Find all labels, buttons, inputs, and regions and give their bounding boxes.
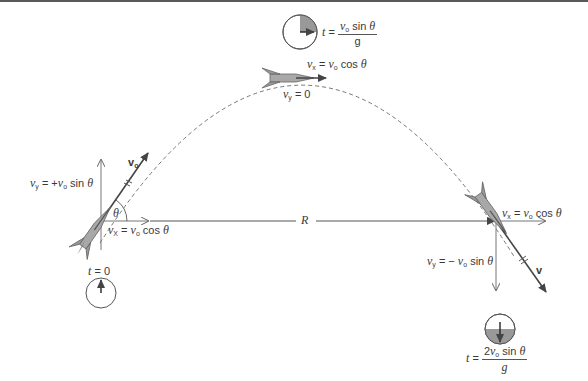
apex-rocket	[262, 68, 326, 88]
landing-time-fraction: 2vo sin θg	[482, 345, 527, 373]
projectile-diagram	[0, 0, 588, 381]
launch-velocity-label: vo	[128, 157, 138, 169]
landing-time-label: t = 2vo sin θg	[466, 345, 527, 373]
launch-vy-label: vy = +vo sin θ	[30, 177, 93, 190]
landing-vy-label: vy = − vo sin θ	[427, 255, 493, 268]
apex-time-label: t = vo sin θg	[322, 20, 377, 47]
launch-clock-icon	[86, 278, 116, 308]
range-label: R	[301, 214, 308, 226]
apex-clock-icon	[283, 15, 317, 49]
landing-vx-label: vx = vo cos θ	[502, 207, 562, 220]
launch-time-label: t = 0	[88, 265, 110, 277]
launch-angle-label: θ	[113, 207, 119, 219]
apex-vy-label: vy = 0	[283, 88, 310, 101]
apex-vx-label: vx = vo cos θ	[307, 58, 367, 71]
landing-velocity-label: v	[536, 265, 542, 276]
apex-time-fraction: vo sin θg	[338, 20, 377, 47]
landing-velocity-vector	[496, 221, 546, 292]
launch-vx-label: vX = vo cos θ	[108, 224, 169, 237]
landing-clock-icon	[485, 314, 515, 344]
